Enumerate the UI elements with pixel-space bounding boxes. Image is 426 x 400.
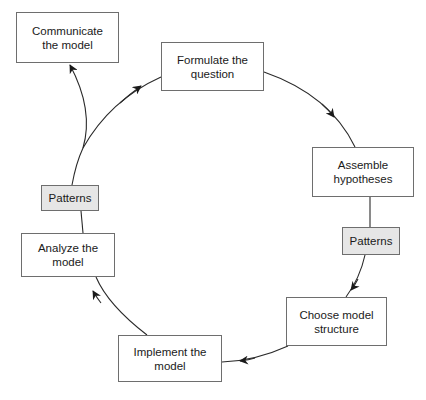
node-communicate: Communicate the model <box>16 12 119 63</box>
node-patterns-right: Patterns <box>342 227 400 255</box>
arrow-to-implement <box>240 358 255 361</box>
node-choose: Choose model structure <box>286 297 387 346</box>
node-patterns-right-label: Patterns <box>350 234 393 248</box>
edge-patterns-choose <box>346 255 365 297</box>
node-communicate-label: Communicate the model <box>32 24 103 52</box>
node-implement-label: Implement the model <box>134 345 207 373</box>
arrow-to-analyze <box>93 291 101 303</box>
node-assemble-label: Assemble hypotheses <box>334 158 393 186</box>
arrow-to-formulate <box>120 86 141 103</box>
node-choose-label: Choose model structure <box>299 308 373 336</box>
node-patterns-left: Patterns <box>41 185 99 211</box>
node-analyze-label: Analyze the model <box>38 241 98 269</box>
edge-patterns-left-trunk <box>72 148 83 185</box>
edge-formulate-assemble <box>264 72 355 147</box>
node-assemble: Assemble hypotheses <box>312 147 414 197</box>
arrow-to-assemble <box>322 104 334 117</box>
node-patterns-left-label: Patterns <box>49 191 92 205</box>
node-analyze: Analyze the model <box>21 233 115 277</box>
arrow-to-choose <box>351 279 358 290</box>
edge-to-formulate <box>83 77 161 148</box>
edge-choose-implement <box>222 346 288 362</box>
modeling-cycle-diagram: Communicate the model Formulate the ques… <box>0 0 426 400</box>
edge-implement-analyze <box>96 277 147 335</box>
node-formulate: Formulate the question <box>161 42 264 91</box>
edge-analyze-patterns <box>81 211 83 233</box>
node-formulate-label: Formulate the question <box>177 53 248 81</box>
node-implement: Implement the model <box>118 335 222 382</box>
edge-to-communicate <box>70 65 86 148</box>
